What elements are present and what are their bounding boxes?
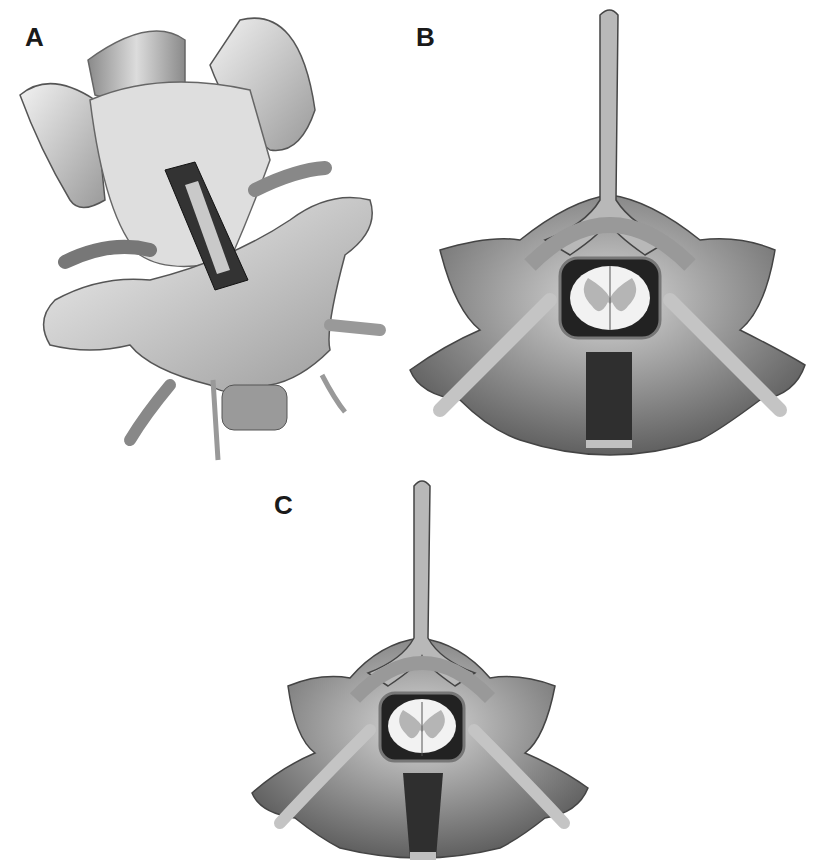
vertebrae-oblique-illustration	[0, 0, 400, 470]
panel-a: A	[0, 0, 400, 470]
panel-b: B	[400, 0, 824, 470]
panel-c: C	[240, 468, 600, 868]
vertebra-axial-illustration-b	[400, 0, 824, 470]
vertebra-axial-illustration-c	[240, 468, 600, 868]
